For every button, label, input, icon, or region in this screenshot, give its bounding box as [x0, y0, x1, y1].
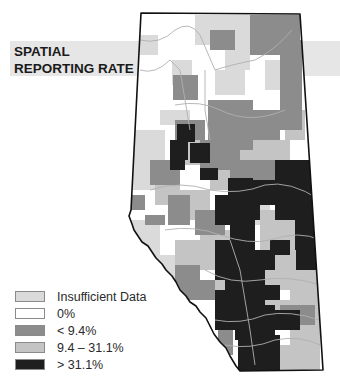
legend-item-high: > 31.1% — [15, 356, 146, 373]
legend-label: < 9.4% — [57, 324, 96, 338]
legend-item-mid: 9.4 – 31.1% — [15, 339, 146, 356]
title-line-1: SPATIAL — [14, 43, 134, 60]
legend: Insufficient Data 0% < 9.4% 9.4 – 31.1% … — [15, 288, 146, 373]
legend-item-low: < 9.4% — [15, 322, 146, 339]
swatch-high — [15, 359, 45, 370]
legend-label: 0% — [57, 307, 75, 321]
map-title: SPATIAL REPORTING RATE — [14, 43, 134, 77]
legend-label: Insufficient Data — [57, 290, 146, 304]
legend-item-zero: 0% — [15, 305, 146, 322]
legend-item-insufficient: Insufficient Data — [15, 288, 146, 305]
swatch-mid — [15, 342, 45, 353]
title-line-2: REPORTING RATE — [14, 60, 134, 77]
swatch-low — [15, 325, 45, 336]
legend-label: > 31.1% — [57, 358, 103, 372]
swatch-zero — [15, 308, 45, 319]
legend-label: 9.4 – 31.1% — [57, 341, 124, 355]
swatch-insufficient — [15, 291, 45, 302]
reporting-rate-regions — [120, 0, 340, 388]
